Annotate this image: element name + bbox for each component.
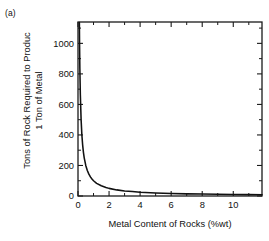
y-tick-label: 800 [58, 69, 74, 79]
x-tick-label: 6 [169, 200, 174, 210]
y-tick-label: 200 [58, 161, 74, 171]
x-tick-label: 0 [75, 200, 80, 210]
x-tick-label: 8 [200, 200, 205, 210]
x-tick-label: 10 [228, 200, 238, 210]
plot-frame [78, 22, 262, 196]
y-tick-label: 600 [58, 100, 74, 110]
plot-svg: 024681002004006008001000 [0, 0, 269, 241]
x-tick-label: 2 [106, 200, 111, 210]
y-tick-label: 0 [69, 191, 74, 201]
x-tick-label: 4 [138, 200, 143, 210]
y-tick-label: 1000 [53, 39, 74, 49]
chart-figure: Tons of Rock Required to Produc 1 Ton of… [0, 0, 269, 241]
data-curve [79, 23, 262, 195]
y-tick-label: 400 [58, 130, 74, 140]
axis-ticks [78, 22, 262, 196]
